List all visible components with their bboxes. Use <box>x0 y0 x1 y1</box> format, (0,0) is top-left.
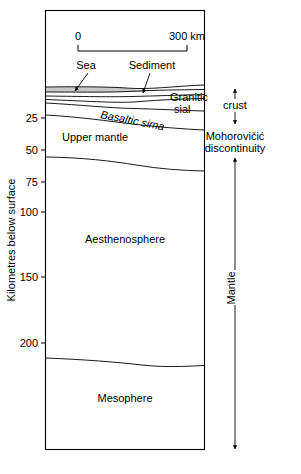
callout-leader-sediment <box>143 73 150 93</box>
scale-bar-line <box>78 45 187 51</box>
scale-bar-end-label: 300 km <box>169 30 205 42</box>
axis-tick-label-200: 200 <box>20 337 38 349</box>
annotation-moho-line1: Mohorovičić <box>206 130 265 142</box>
boundary-aesthenosphere-base <box>46 358 204 367</box>
axis-tick-label-50: 50 <box>26 144 38 156</box>
region-label-aesthenosphere: Aesthenosphere <box>85 233 165 245</box>
axis-tick-label-100: 100 <box>20 206 38 218</box>
bracket-label-crust: crust <box>223 99 247 111</box>
diagram-canvas: 25 50 75 100 150 200 Kilometres below su… <box>0 0 301 474</box>
layer-label-basaltic-sima: Basaltic sima <box>100 108 166 132</box>
region-label-mesophere: Mesophere <box>97 392 152 404</box>
plot-frame <box>46 11 205 450</box>
region-label-upper-mantle: Upper mantle <box>62 131 128 143</box>
layer-label-granitic-line2: sial <box>174 103 191 115</box>
axis-tick-label-25: 25 <box>26 112 38 124</box>
scale-bar-start-label: 0 <box>75 30 81 42</box>
boundary-upper-mantle-base <box>46 157 204 171</box>
axis-tick-label-75: 75 <box>26 176 38 188</box>
bracket-label-mantle: Mantle <box>225 271 237 304</box>
callout-label-sediment: Sediment <box>129 59 175 71</box>
callout-label-sea: Sea <box>76 59 96 71</box>
annotation-moho-line2: discontinuity <box>205 142 266 154</box>
axis-title: Kilometres below surface <box>5 179 17 302</box>
layer-label-granitic-line1: Granitic <box>170 91 208 103</box>
geological-cross-section-figure: 25 50 75 100 150 200 Kilometres below su… <box>0 0 301 474</box>
axis-tick-label-150: 150 <box>20 271 38 283</box>
scale-bar <box>78 45 187 51</box>
